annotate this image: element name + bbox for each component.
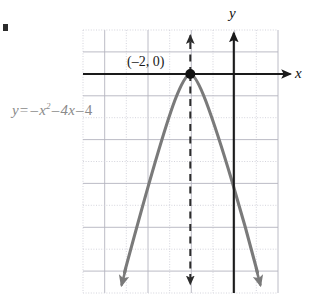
equation-lhs: y <box>12 102 19 118</box>
equation-equals: = <box>19 102 30 118</box>
equation-term2: 4x <box>61 102 76 118</box>
graph-canvas <box>0 0 318 302</box>
equation-term3: 4 <box>85 102 93 118</box>
vertex-coordinate-label: (–2, 0) <box>127 55 164 69</box>
equation-label: y=–x2–4x–4 <box>12 103 92 118</box>
y-axis-label: y <box>229 6 236 21</box>
parabola-figure: y=–x2–4x–4 (–2, 0) x y <box>0 0 318 302</box>
vertex-point <box>185 69 195 79</box>
equation-term3-sign: – <box>75 102 85 118</box>
x-axis-label: x <box>295 66 302 81</box>
equation-term2-sign: – <box>51 102 61 118</box>
equation-term1-sign: – <box>30 102 40 118</box>
